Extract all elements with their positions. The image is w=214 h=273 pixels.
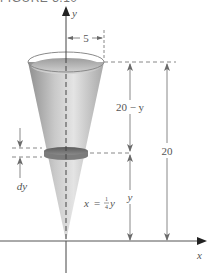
cone-diagram: y x 5 20 − y y 20 [0,0,214,273]
x-axis-arrow-icon [197,237,207,245]
slice-thickness-label: dy [17,180,28,192]
cone-equation: x = 1 4 y [83,196,115,210]
y-axis-label: y [71,7,77,19]
svg-text:=: = [94,197,100,209]
svg-text:1: 1 [105,196,108,202]
svg-text:y: y [109,197,115,209]
y-axis-arrow-icon [62,6,70,16]
x-axis [0,237,207,245]
lower-height-label: y [127,191,133,203]
radius-label: 5 [83,32,89,44]
svg-text:x: x [83,197,89,209]
svg-text:4: 4 [105,204,108,210]
slice-thickness-dimension [17,128,23,178]
x-axis-label: x [196,249,202,261]
total-height-label: 20 [162,145,174,157]
upper-height-label: 20 − y [116,101,145,113]
